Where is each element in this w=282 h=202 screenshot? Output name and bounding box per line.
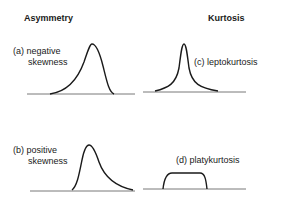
distribution-diagrams bbox=[0, 0, 282, 202]
platykurtosis-curve bbox=[143, 173, 246, 189]
leptokurtosis-curve bbox=[143, 44, 246, 92]
positive-skewness-curve bbox=[30, 145, 135, 191]
negative-skewness-curve bbox=[27, 44, 135, 94]
